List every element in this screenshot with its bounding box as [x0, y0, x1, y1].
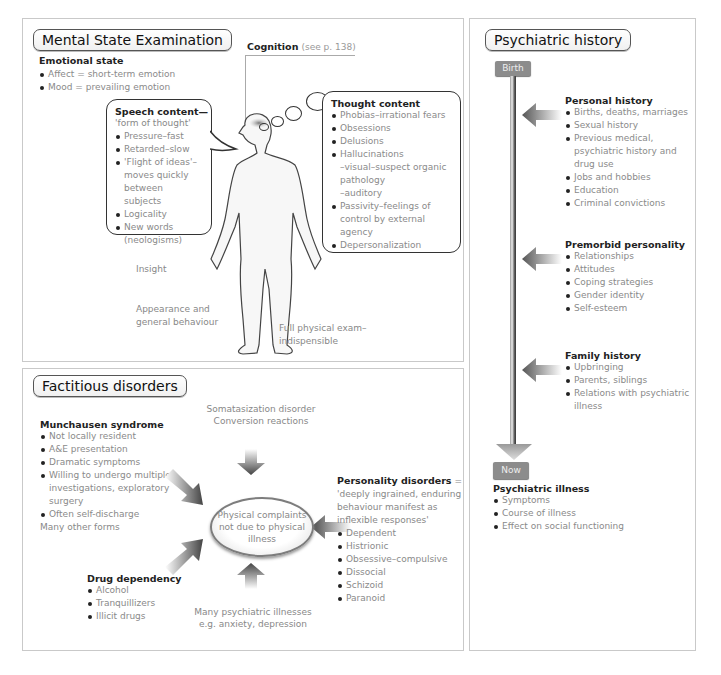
- list-item: Gender identity: [565, 289, 690, 302]
- list-item: Obsessions: [331, 122, 452, 135]
- list-item: Symptoms: [493, 494, 683, 507]
- list-item: Sexual history: [565, 119, 690, 132]
- list-item: Phobias–irrational fears: [331, 109, 452, 122]
- list-item: Effect on social functioning: [493, 520, 683, 533]
- somatization-line-1: Somatasization disorder: [191, 403, 331, 415]
- timeline-arrowhead: [496, 444, 532, 460]
- mse-title: Mental State Examination: [33, 29, 232, 51]
- definition-line-2: behaviour manifest as: [337, 501, 465, 514]
- emotional-state: Emotional state Affect = short-term emot…: [39, 55, 175, 94]
- family-history-arrow: [522, 358, 562, 382]
- factitious-disorders-panel: Factitious disorders Somatasization diso…: [22, 368, 464, 651]
- list-item: Obsessive–compulsive: [337, 553, 465, 566]
- emotional-state-heading: Emotional state: [39, 55, 175, 66]
- psychiatric-history-panel: Psychiatric history Birth Now Personal h…: [469, 18, 696, 651]
- cognition-ref: (see p. 138): [301, 42, 355, 52]
- personality-equals: =: [452, 476, 462, 486]
- list-item: Relations with psychiatric illness: [565, 387, 690, 413]
- hallucinations-auditory: –auditory: [340, 187, 452, 200]
- list-item: Schizoid: [337, 579, 465, 592]
- list-item: Coping strategies: [565, 276, 690, 289]
- personal-history-section: Personal history Births, deaths, marriag…: [565, 95, 690, 210]
- list-item: Delusions: [331, 135, 452, 148]
- thought-content-bubble: Thought content Phobias–irrational fears…: [322, 91, 461, 253]
- list-item: Criminal convictions: [565, 197, 690, 210]
- somatization-line-2: Conversion reactions: [191, 415, 331, 427]
- definition-line-3: inflexible responses': [337, 514, 465, 527]
- premorbid-arrow: [522, 247, 562, 271]
- drug-heading: Drug dependency: [87, 573, 197, 584]
- physical-exam-label: Full physical exam– indispensible: [279, 322, 367, 348]
- hallucinations-visual: –visual–suspect organic pathology: [340, 161, 452, 187]
- thought-heading: Thought content: [331, 98, 452, 109]
- drug-dependency-section: Drug dependency Alcohol Tranquillizers I…: [87, 573, 197, 623]
- list-item: Dependent: [337, 527, 465, 540]
- list-item: Jobs and hobbies: [565, 171, 690, 184]
- munchausen-footer: Many other forms: [40, 521, 180, 534]
- psychiatric-illness-section: Psychiatric illness Symptoms Course of i…: [493, 483, 683, 533]
- physical-exam-line-1: Full physical exam–: [279, 322, 367, 335]
- list-item: Previous medical, psychiatric history an…: [565, 132, 690, 171]
- list-item: Upbringing: [565, 361, 690, 374]
- thought-bubble-dot-2: [271, 116, 284, 127]
- center-line-3: illness: [218, 533, 307, 545]
- family-heading: Family history: [565, 350, 690, 361]
- personal-history-arrow: [522, 103, 562, 127]
- list-item: Illicit drugs: [87, 610, 197, 623]
- appearance-line-2: general behaviour: [136, 316, 218, 329]
- cognition-text: Cognition: [247, 41, 298, 52]
- list-item: Education: [565, 184, 690, 197]
- list-item: 'Flight of ideas'– moves quickly between…: [115, 156, 203, 208]
- list-item: Histrionic: [337, 540, 465, 553]
- psychiatric-illnesses-label: Many psychiatric illnesses e.g. anxiety,…: [183, 606, 323, 630]
- physical-exam-line-2: indispensible: [279, 335, 367, 348]
- list-item: Dissocial: [337, 566, 465, 579]
- history-title: Psychiatric history: [485, 29, 631, 51]
- list-item: Attitudes: [565, 263, 690, 276]
- personality-disorders-section: Personality disorders = 'deeply ingraine…: [337, 469, 465, 605]
- premorbid-section: Premorbid personality Relationships Atti…: [565, 239, 690, 315]
- list-item: Dramatic symptoms: [40, 456, 180, 469]
- list-item: Logicality: [115, 208, 203, 221]
- list-item: Depersonalization: [331, 239, 452, 252]
- cognition-label: Cognition (see p. 138): [247, 41, 356, 52]
- mental-state-examination-panel: Mental State Examination Emotional state…: [22, 18, 464, 362]
- list-item: Parents, siblings: [565, 374, 690, 387]
- cognition-leader-line: [245, 55, 355, 56]
- munchausen-section: Munchausen syndrome Not locally resident…: [40, 419, 180, 534]
- illness-heading: Psychiatric illness: [493, 483, 683, 494]
- now-tag: Now: [493, 462, 529, 479]
- definition-line-1: 'deeply ingrained, enduring: [337, 488, 465, 501]
- list-item: Mood = prevailing emotion: [39, 81, 175, 94]
- list-item: New words (neologisms): [115, 221, 203, 247]
- list-item: Not locally resident: [40, 430, 180, 443]
- appearance-label: Appearance and general behaviour: [136, 303, 218, 329]
- speech-content-bubble: Speech content— 'form of thought' Pressu…: [106, 99, 212, 235]
- psychiatric-line-1: Many psychiatric illnesses: [183, 606, 323, 618]
- list-item: Hallucinations –visual–suspect organic p…: [331, 148, 452, 200]
- speech-subheading: 'form of thought': [115, 117, 203, 130]
- family-history-section: Family history Upbringing Parents, sibli…: [565, 350, 690, 413]
- somatization-label: Somatasization disorder Conversion react…: [191, 403, 331, 427]
- timeline-bar: [510, 76, 516, 446]
- list-item: Course of illness: [493, 507, 683, 520]
- personality-heading: Personality disorders: [337, 475, 452, 486]
- list-item: A&E presentation: [40, 443, 180, 456]
- center-line-1: Physical complaints: [218, 509, 307, 521]
- list-item: Tranquillizers: [87, 597, 197, 610]
- appearance-line-1: Appearance and: [136, 303, 218, 316]
- premorbid-heading: Premorbid personality: [565, 239, 690, 250]
- speech-bubble-tail: [210, 129, 240, 159]
- list-item: Often self-discharge: [40, 508, 180, 521]
- center-line-2: not due to physical: [218, 521, 307, 533]
- psychiatric-line-2: e.g. anxiety, depression: [183, 618, 323, 630]
- thought-bubble-dot-3: [285, 106, 302, 121]
- personality-definition: 'deeply ingrained, enduring behaviour ma…: [337, 488, 465, 527]
- list-item: Retarded–slow: [115, 143, 203, 156]
- factitious-title: Factitious disorders: [33, 375, 187, 397]
- list-item: Passivity–feelings of control by externa…: [331, 200, 452, 239]
- list-item: Pressure–fast: [115, 130, 203, 143]
- list-item: Alcohol: [87, 584, 197, 597]
- central-oval: Physical complaints not due to physical …: [210, 497, 314, 557]
- list-item: Relationships: [565, 250, 690, 263]
